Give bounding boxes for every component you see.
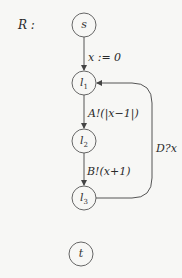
edge-label-send-b: B!(x+1) — [87, 166, 131, 177]
node-t-label: t — [69, 248, 93, 259]
edge-label-send-a: A!(|x−1|) — [88, 108, 139, 119]
edge-l3-l1-loop — [96, 83, 152, 198]
edge-label-receive-d: D?x — [156, 143, 177, 154]
node-l1-label: l1 — [72, 77, 96, 91]
node-l3-label: l3 — [72, 192, 96, 206]
edge-label-assign: x := 0 — [88, 52, 121, 63]
diagram-title: R : — [18, 19, 35, 31]
node-l2-label: l2 — [72, 135, 96, 149]
node-s-label: s — [72, 19, 96, 30]
